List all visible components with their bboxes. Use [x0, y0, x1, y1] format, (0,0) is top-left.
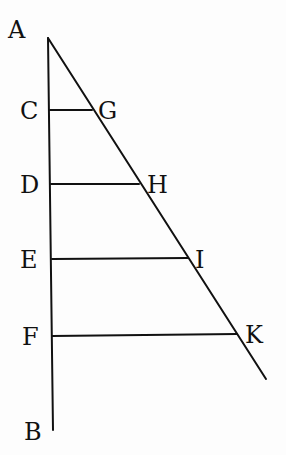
line-diagonal [48, 38, 266, 379]
label-d: D [20, 171, 39, 199]
label-i: I [195, 246, 204, 274]
label-a: A [7, 16, 26, 44]
label-f: F [22, 323, 39, 351]
label-k: K [245, 321, 264, 349]
label-e: E [20, 246, 38, 274]
label-c: C [20, 97, 38, 125]
label-b: B [24, 418, 42, 446]
segment-ei [52, 258, 188, 259]
segment-fk [52, 334, 237, 336]
geometry-diagram: A C G D H E I F K B [0, 0, 286, 455]
label-h: H [147, 171, 168, 199]
label-g: G [98, 97, 117, 125]
line-ab [48, 38, 53, 430]
